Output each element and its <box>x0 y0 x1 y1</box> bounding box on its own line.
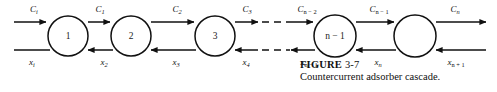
flow-label-x4: x4 <box>241 57 250 68</box>
flow-label-Cn: Cn <box>450 4 459 15</box>
flow-label-Cn-2: Cn − 2 <box>297 4 316 15</box>
flow-label-C2: C2 <box>172 4 182 15</box>
flow-label-x2: x2 <box>99 57 108 68</box>
flow-label-Ci: Ci <box>30 4 38 15</box>
figure-caption-label: FIGURE <box>300 59 342 70</box>
figure-caption-text: Countercurrent adsorber cascade. <box>300 71 497 83</box>
flow-label-Cn-1: Cn − 1 <box>369 4 388 15</box>
flow-label-C3: C3 <box>242 4 251 15</box>
stage-label-2: 2 <box>129 31 134 41</box>
top-flow-labels: Ci C1 C2 C3 Cn − 2 Cn − 1 Cn <box>30 4 460 15</box>
stage-label-n-1: n − 1 <box>325 31 345 41</box>
flow-label-xi: xi <box>28 57 35 68</box>
figure-caption-title: FIGURE 3-7 <box>300 59 497 71</box>
stage-label-1: 1 <box>66 31 71 41</box>
figure-caption: FIGURE 3-7 Countercurrent adsorber casca… <box>300 59 497 84</box>
figure-container: 1 2 3 n − 1 Ci C1 C2 C3 Cn − 2 Cn − 1 <box>0 0 497 92</box>
flow-label-C1: C1 <box>95 4 104 15</box>
figure-caption-number: 3-7 <box>345 59 360 70</box>
stage-label-3: 3 <box>213 31 218 41</box>
flow-label-x3: x3 <box>171 57 179 68</box>
stage-circle-n <box>394 15 436 57</box>
